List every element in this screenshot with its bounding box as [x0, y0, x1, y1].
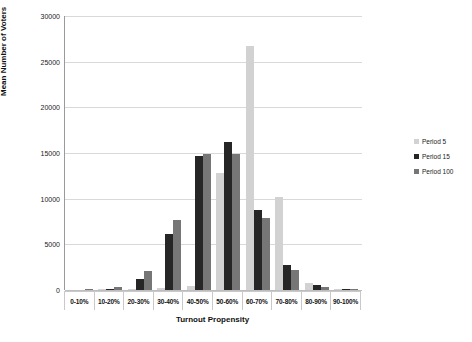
bar: [275, 197, 283, 290]
bar-group: [96, 16, 126, 290]
legend: Period 5 Period 15 Period 100: [414, 138, 453, 175]
x-axis-tick-label: 20-30%: [124, 291, 154, 310]
bar: [334, 289, 342, 290]
bar-group: [155, 16, 185, 290]
plot-area: [64, 16, 361, 290]
y-tick-label: 30000: [41, 13, 60, 20]
bar: [305, 283, 313, 290]
bar: [232, 154, 240, 290]
y-tick-label: 0: [56, 287, 60, 294]
bar: [157, 288, 165, 290]
x-axis-tick-label: 40-50%: [183, 291, 213, 310]
bar: [224, 142, 232, 290]
bar: [165, 234, 173, 290]
bar-group: [214, 16, 244, 290]
bar-group: [273, 16, 303, 290]
bar: [262, 218, 270, 290]
bar-group: [302, 16, 332, 290]
legend-label: Period 100: [422, 168, 453, 175]
bar: [98, 289, 106, 290]
bar: [195, 156, 203, 290]
bar: [216, 173, 224, 290]
legend-item: Period 15: [414, 153, 453, 160]
bar: [321, 287, 329, 290]
y-tick-label: 25000: [41, 58, 60, 65]
bar: [144, 271, 152, 290]
x-axis-tick-label: 60-70%: [243, 291, 273, 310]
bar: [254, 210, 262, 290]
bar-group: [184, 16, 214, 290]
y-axis: 30000 25000 20000 15000 10000 5000 0: [0, 16, 64, 290]
x-axis-tick-label: 90-100%: [331, 291, 361, 310]
bar: [246, 46, 254, 290]
bar: [106, 289, 114, 290]
x-axis-tick-label: 70-80%: [272, 291, 302, 310]
bar: [291, 270, 299, 290]
x-axis-tick-label: 10-20%: [95, 291, 125, 310]
bar-group: [243, 16, 273, 290]
bar: [128, 289, 136, 290]
bar: [203, 154, 211, 290]
y-tick-label: 5000: [44, 241, 60, 248]
bar-group: [332, 16, 362, 290]
bar: [136, 279, 144, 290]
y-axis-title: Mean Number of Voters: [0, 0, 8, 96]
y-tick-label: 10000: [41, 195, 60, 202]
bar: [114, 287, 122, 290]
bar: [350, 289, 358, 290]
x-axis-tick-label: 80-90%: [302, 291, 332, 310]
bar: [85, 289, 93, 290]
bar-group: [125, 16, 155, 290]
legend-swatch-icon: [414, 154, 419, 159]
bar-chart: 30000 25000 20000 15000 10000 5000 0 Mea…: [0, 0, 472, 342]
bar: [342, 289, 350, 290]
x-axis-categories: 0-10%10-20%20-30%30-40%40-50%50-60%60-70…: [64, 291, 361, 310]
legend-item: Period 5: [414, 138, 453, 145]
legend-label: Period 5: [422, 138, 446, 145]
legend-swatch-icon: [414, 169, 419, 174]
y-tick-label: 15000: [41, 150, 60, 157]
x-axis-tick-label: 30-40%: [154, 291, 184, 310]
bar: [313, 285, 321, 290]
x-axis-tick-label: 0-10%: [65, 291, 95, 310]
bar: [173, 220, 181, 290]
legend-item: Period 100: [414, 168, 453, 175]
legend-swatch-icon: [414, 139, 419, 144]
bar-groups: [66, 16, 361, 290]
bar: [187, 286, 195, 290]
x-axis-tick-label: 50-60%: [213, 291, 243, 310]
x-axis-title: Turnout Propensity: [64, 315, 361, 324]
bar: [283, 265, 291, 290]
bar-group: [66, 16, 96, 290]
legend-label: Period 15: [422, 153, 450, 160]
y-tick-label: 20000: [41, 104, 60, 111]
